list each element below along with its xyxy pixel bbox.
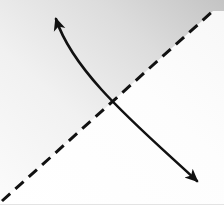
diagram-svg: [0, 0, 224, 205]
diagram-canvas: Crossing curved arrow and dashed diagona…: [0, 0, 224, 205]
